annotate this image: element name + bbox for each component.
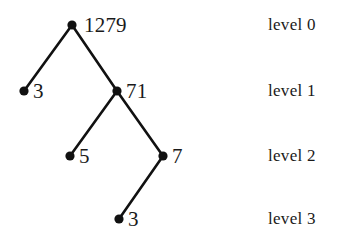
edge-layer (24, 25, 163, 219)
tree-node-value: 1279 (84, 15, 127, 36)
level-label-2: level 2 (268, 147, 316, 164)
tree-diagram-figure: 1279371573 level 0level 1level 2level 3 (0, 0, 352, 240)
tree-node-value: 5 (79, 146, 90, 167)
tree-node-dot[interactable] (158, 151, 167, 160)
tree-node-dot[interactable] (19, 86, 28, 95)
tree-node-dot[interactable] (112, 86, 121, 95)
level-label-1: level 1 (268, 82, 316, 99)
tree-node-dot[interactable] (67, 20, 76, 29)
tree-edge (70, 91, 117, 156)
tree-edge (24, 25, 72, 91)
level-label-3: level 3 (268, 210, 316, 227)
tree-node-value: 71 (126, 81, 147, 102)
tree-node-dot[interactable] (114, 214, 123, 223)
tree-node-value: 7 (172, 146, 183, 167)
tree-node-value: 3 (128, 209, 139, 230)
tree-node-dot[interactable] (65, 151, 74, 160)
tree-graph (0, 0, 352, 240)
tree-edge (119, 156, 163, 219)
tree-node-value: 3 (33, 81, 44, 102)
level-label-0: level 0 (268, 16, 316, 33)
